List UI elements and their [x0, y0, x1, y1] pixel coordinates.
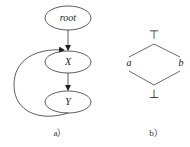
node-x: X [45, 51, 91, 73]
label-a: a [127, 57, 132, 68]
edge-top-to-b [154, 44, 180, 57]
edge-b-to-bottom [154, 71, 180, 85]
bottom-symbol: ⊥ [149, 87, 159, 101]
node-root: root [45, 6, 91, 30]
edge-top-to-a [129, 44, 154, 57]
figure-b: ⊤ a b ⊥ b） [127, 28, 184, 138]
caption-a: a） [54, 128, 67, 138]
edge-a-to-bottom [129, 71, 154, 85]
diagram-canvas: root X Y a） ⊤ a b ⊥ b） [0, 0, 190, 147]
caption-b: b） [149, 128, 163, 138]
node-y-label: Y [65, 96, 72, 107]
node-root-label: root [60, 12, 77, 23]
top-symbol: ⊤ [149, 28, 159, 42]
node-y: Y [45, 91, 91, 113]
edge-y-to-x-back [14, 50, 68, 116]
label-b: b [179, 57, 184, 68]
figure-a: root X Y a） [14, 6, 91, 138]
node-x-label: X [64, 56, 72, 67]
